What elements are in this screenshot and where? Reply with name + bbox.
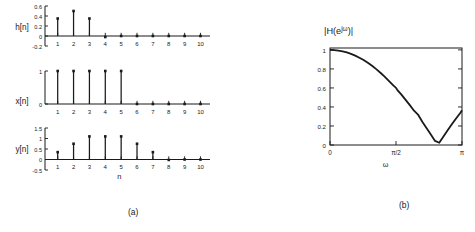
stem-marker	[136, 142, 139, 145]
y-tick-label: 0	[323, 142, 327, 149]
x-tick-label: 10	[197, 164, 204, 170]
x-tick-label: 9	[183, 164, 187, 170]
y-tick-label: 0.8	[318, 66, 327, 73]
y-axis-label: y[n]	[15, 145, 28, 154]
x-tick-label: 3	[88, 164, 92, 170]
stem-marker	[183, 158, 186, 161]
stem-marker	[104, 70, 107, 73]
stem-marker	[88, 70, 91, 73]
stem-marker	[104, 135, 107, 138]
stem-marker	[88, 135, 91, 138]
stem-marker	[167, 159, 170, 162]
stem-marker	[152, 35, 155, 38]
x-axis-label: n	[117, 172, 121, 181]
x-tick-label: π	[460, 149, 465, 156]
x-tick-label: 2	[72, 109, 76, 115]
x-tick-label: 0	[328, 149, 332, 156]
x-tick-label: 6	[135, 41, 139, 47]
x-tick-label: 10	[197, 41, 204, 47]
x-tick-label: 1	[56, 164, 60, 170]
stem-marker	[104, 36, 107, 39]
x-tick-label: 8	[167, 109, 171, 115]
x-tick-label: 7	[151, 109, 155, 115]
y-tick-label: 0	[39, 157, 42, 163]
x-tick-label: 5	[119, 41, 123, 47]
stem-marker	[199, 103, 202, 106]
x-tick-label: 5	[119, 164, 123, 170]
x-tick-label: 4	[104, 109, 108, 115]
y-tick-label: 0.6	[34, 4, 42, 10]
x-tick-label: 9	[183, 109, 187, 115]
plot-title: |H(ejω)|	[324, 25, 353, 37]
x-tick-label: 4	[104, 41, 108, 47]
x-axis-label: ω	[383, 160, 389, 169]
figure-container: -0.200.20.40.612345678910h[n]01123456789…	[0, 0, 475, 232]
x-tick-label: 6	[135, 164, 139, 170]
stem-marker	[199, 158, 202, 161]
stem-marker	[183, 103, 186, 106]
stem-marker	[120, 35, 123, 38]
stem-marker	[136, 103, 139, 106]
figure-svg: -0.200.20.40.612345678910h[n]01123456789…	[0, 0, 475, 232]
stem-marker	[136, 35, 139, 38]
x-tick-label: 1	[56, 41, 60, 47]
y-tick-label: 0.2	[318, 123, 327, 130]
y-tick-label: 0.4	[34, 14, 42, 20]
y-tick-label: -0.2	[32, 44, 42, 50]
stem-marker	[167, 35, 170, 38]
stem-marker	[56, 151, 59, 154]
x-tick-label: 4	[104, 164, 108, 170]
y-tick-label: 1.5	[34, 126, 42, 132]
stem-marker	[152, 151, 155, 154]
stem-marker	[56, 70, 59, 73]
stem-plot-yn: -0.500.511.512345678910y[n]n	[15, 126, 210, 181]
stem-marker	[152, 103, 155, 106]
y-tick-label: 0.6	[318, 85, 327, 92]
y-tick-label: 1	[39, 69, 42, 75]
y-axis-label: h[n]	[15, 23, 29, 32]
stem-marker	[56, 17, 59, 20]
x-tick-label: 3	[88, 41, 92, 47]
panel-a-caption: (a)	[128, 207, 138, 217]
y-tick-label: 0	[39, 102, 42, 108]
x-tick-label: 3	[88, 109, 92, 115]
stem-marker	[120, 135, 123, 138]
y-tick-label: 1	[323, 47, 327, 54]
x-tick-label: 8	[167, 41, 171, 47]
stem-marker	[120, 70, 123, 73]
y-tick-label: 0.2	[34, 24, 42, 30]
plot-frame	[330, 48, 462, 145]
x-tick-label: 10	[197, 109, 204, 115]
x-tick-label: 8	[167, 164, 171, 170]
y-tick-label: 1	[39, 136, 42, 142]
y-tick-label: -0.5	[32, 168, 42, 174]
response-curve	[330, 50, 462, 143]
stem-marker	[72, 142, 75, 145]
stem-marker	[183, 35, 186, 38]
y-axis-label: x[n]	[15, 97, 28, 106]
x-tick-label: 6	[135, 109, 139, 115]
x-tick-label: π/2	[391, 149, 401, 156]
x-tick-label: 5	[119, 109, 123, 115]
stem-plot-hn: -0.200.20.40.612345678910h[n]	[15, 4, 210, 50]
stem-marker	[72, 70, 75, 73]
y-tick-label: 0	[39, 34, 42, 40]
x-tick-label: 2	[72, 41, 76, 47]
stem-plot-xn: 0112345678910x[n]	[15, 69, 210, 115]
stem-marker	[167, 103, 170, 106]
stem-marker	[88, 17, 91, 20]
x-tick-label: 7	[151, 41, 155, 47]
y-tick-label: 0.5	[34, 147, 42, 153]
panel-b-caption: (b)	[399, 200, 409, 210]
x-tick-label: 9	[183, 41, 187, 47]
x-tick-label: 2	[72, 164, 76, 170]
stem-marker	[72, 10, 75, 13]
x-tick-label: 1	[56, 109, 60, 115]
magnitude-response-plot: 00.20.40.60.810π/2πω|H(ejω)|	[318, 25, 465, 170]
y-tick-label: 0.4	[318, 104, 327, 111]
stem-marker	[199, 35, 202, 38]
x-tick-label: 7	[151, 164, 155, 170]
